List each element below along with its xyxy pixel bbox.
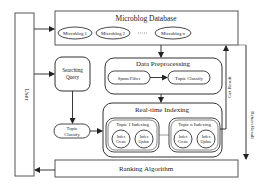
microblog-item: Microblog 1 [58,27,92,39]
index-update-node: Index Update [135,130,153,148]
index-create-node: Index Create [112,130,130,148]
get-result-label: Get Result [227,76,232,98]
microblog-item: Microblog 2 [96,27,130,39]
svg-text:Spam Filter: Spam Filter [118,76,141,81]
svg-text:Create: Create [178,140,188,144]
topic-1-indexing: Topic 1 Indexing Index Create Index Upda… [106,118,159,152]
ranking-label: Ranking Algorithm [119,165,174,173]
index-update-node: Index Update [197,130,215,148]
indexing-title: Real-time Indexing [135,106,190,114]
searching-query-box: Searching Query [55,57,90,91]
svg-text:Topic 1 Indexing: Topic 1 Indexing [116,122,149,127]
user-label: User [24,88,31,101]
svg-text:Create: Create [116,140,126,144]
svg-text:Index: Index [117,135,126,139]
return-result-label: Return Result [250,111,255,139]
svg-text:Microblog 2: Microblog 2 [101,31,125,36]
user-box: User [15,13,34,176]
microblog-database: Microblog Database Microblog 1 Microblog… [55,11,238,45]
svg-text:Update: Update [201,140,212,144]
svg-text:Index: Index [202,135,211,139]
index-create-node: Index Create [174,130,192,148]
topic-classify-node: Topic Classify [168,71,210,84]
svg-text:Index: Index [179,135,188,139]
svg-text:Index: Index [140,135,149,139]
svg-text:Update: Update [139,140,150,144]
svg-text:Query: Query [66,74,79,80]
preprocessing-title: Data Preprocessing [136,60,191,68]
microblog-item: Microblog n [155,27,191,39]
topic-n-indexing: Topic n Indexing Index Create Index Upda… [169,118,220,152]
svg-text:Topic: Topic [67,126,78,131]
real-time-indexing-box: Real-time Indexing Topic 1 Indexing Inde… [103,103,222,157]
query-topic-classify-node: Topic Classify [54,124,90,138]
data-preprocessing-box: Data Preprocessing Spam Filter Topic Cla… [105,58,222,94]
svg-text:Searching: Searching [62,67,83,73]
svg-text:Topic n Indexing: Topic n Indexing [178,122,211,127]
ranking-algorithm-box: Ranking Algorithm [55,160,238,177]
spam-filter-node: Spam Filter [108,71,150,84]
database-title: Microblog Database [115,14,177,23]
svg-text:Microblog 1: Microblog 1 [63,31,87,36]
svg-text:Topic Classify: Topic Classify [175,76,203,81]
architecture-diagram: User Microblog Database Microblog 1 Micr… [0,0,265,188]
svg-text:Classify: Classify [64,132,80,137]
svg-text:Microblog n: Microblog n [161,31,185,36]
